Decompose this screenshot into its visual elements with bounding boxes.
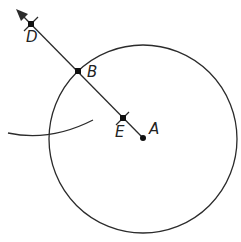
point-b-marker [75,68,81,74]
label-b: B [87,63,97,81]
point-e-marker [120,115,126,121]
label-e: E [115,123,125,141]
label-a: A [148,120,159,138]
point-a-marker [140,135,146,141]
geometry-diagram: D B E A [0,0,241,242]
point-d-marker [28,21,34,27]
label-d: D [26,28,38,46]
